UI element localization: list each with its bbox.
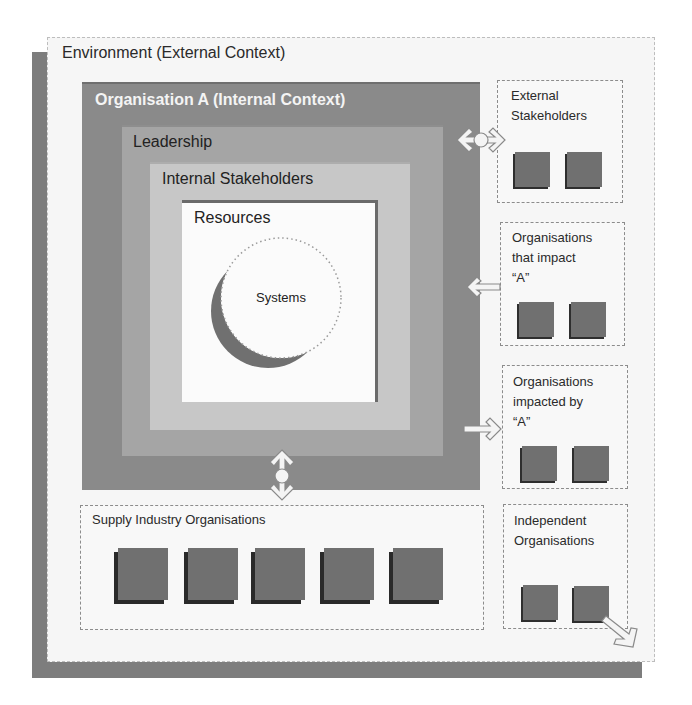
- supply-industry-label: Supply Industry Organisations: [92, 512, 265, 527]
- supply-square: [393, 548, 443, 600]
- independent-orgs-label: Independent Organisations: [514, 511, 594, 551]
- external-stakeholders-label: External Stakeholders: [511, 86, 587, 126]
- organisation-a-label: Organisation A (Internal Context): [95, 91, 345, 109]
- entity-square: [571, 302, 606, 337]
- orgs-that-impact-a-label: Organisations that impact “A”: [512, 228, 592, 288]
- supply-square: [324, 548, 374, 600]
- entity-square: [574, 586, 609, 621]
- systems-label: Systems: [241, 290, 321, 305]
- entity-square: [515, 152, 550, 187]
- entity-square: [567, 152, 602, 187]
- environment-label: Environment (External Context): [62, 44, 285, 62]
- supply-square: [188, 548, 238, 600]
- entity-square: [522, 446, 557, 481]
- resources-label: Resources: [194, 209, 270, 227]
- entity-square: [574, 446, 609, 481]
- entity-square: [523, 585, 558, 620]
- entity-square: [519, 302, 554, 337]
- supply-square: [255, 548, 305, 600]
- orgs-impacted-by-a-label: Organisations impacted by “A”: [513, 372, 593, 432]
- supply-square: [118, 548, 168, 600]
- internal-stakeholders-label: Internal Stakeholders: [162, 170, 313, 188]
- leadership-label: Leadership: [133, 133, 212, 151]
